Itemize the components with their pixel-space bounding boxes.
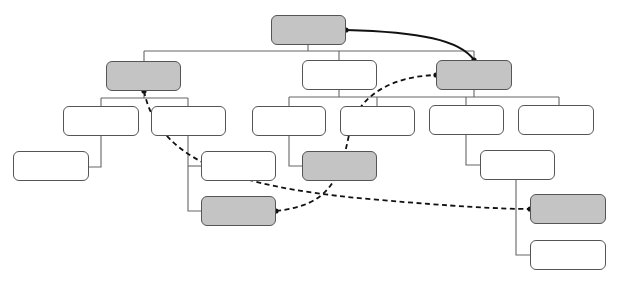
tree-node-a: [106, 61, 181, 91]
tree-connector-line: [188, 136, 201, 211]
node-label: [64, 107, 138, 135]
node-label: [481, 151, 554, 179]
tree-node-c2: [518, 105, 594, 135]
node-label: [272, 16, 345, 44]
node-label: [437, 61, 511, 89]
tree-node-c: [436, 60, 512, 90]
node-label: [14, 152, 88, 180]
node-label: [303, 152, 376, 180]
node-label: [430, 106, 503, 134]
node-label: [531, 241, 605, 269]
node-label: [152, 107, 225, 135]
tree-connector-line: [466, 135, 480, 165]
node-label: [341, 107, 414, 135]
node-label: [531, 195, 605, 223]
tree-node-root: [271, 15, 346, 45]
tree-node-b: [302, 60, 377, 90]
tree-node-c1c: [530, 240, 606, 270]
tree-node-a1a: [13, 151, 89, 181]
tree-connector-line: [516, 180, 530, 255]
node-label: [202, 152, 275, 180]
cross-link-root-to-c: [346, 30, 474, 60]
node-label: [519, 106, 593, 134]
tree-node-a1: [63, 106, 139, 136]
tree-node-a2b: [201, 196, 276, 226]
tree-node-c1a: [480, 150, 555, 180]
tree-connector-line: [89, 136, 101, 167]
node-label: [303, 61, 376, 89]
tree-node-c1: [429, 105, 504, 135]
tree-node-b1: [252, 106, 326, 136]
tree-node-c1b: [530, 194, 606, 224]
tree-node-a2a: [201, 151, 276, 181]
tree-node-b1a: [302, 151, 377, 181]
node-label: [202, 197, 275, 225]
tree-connector-line: [289, 136, 302, 166]
node-label: [253, 107, 325, 135]
tree-node-b2: [340, 106, 415, 136]
tree-node-a2: [151, 106, 226, 136]
node-label: [107, 62, 180, 90]
